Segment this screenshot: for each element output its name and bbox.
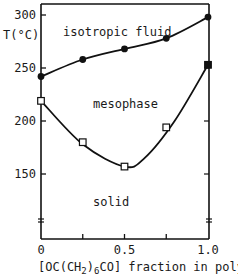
y-axis-label: T(°C) [3,28,39,42]
data-point-filled-circle [79,56,86,63]
y-tick-label: 150 [14,167,36,181]
data-point-filled-circle [121,46,128,53]
x-axis-label: [OC(CH2)6CO] fraction in polymer [38,260,238,276]
region-label-mesophase: mesophase [93,97,158,111]
data-point-open-square [79,139,86,146]
y-tick-label: 250 [14,61,36,75]
data-point-open-square [38,98,45,105]
x-tick-label: 0.5 [114,243,136,257]
data-point-open-square [121,163,128,170]
x-axis-ticks: 00.51.0 [37,234,218,257]
x-tick-label: 0 [37,243,44,257]
phase-diagram-chart: 150200250300 00.51.0 T(°C) isotropic flu… [0,0,238,277]
melting-curve [41,65,208,167]
y-tick-label: 200 [14,114,36,128]
data-point-filled-square [205,62,212,69]
data-point-filled-circle [38,73,45,80]
region-label-solid: solid [93,195,129,209]
data-point-filled-circle [205,14,212,21]
data-point-open-square [163,124,170,131]
phase-boundary-curves [41,17,208,167]
x-tick-label: 1.0 [197,243,219,257]
axis-break-marks [38,219,212,222]
y-tick-label: 300 [14,8,36,22]
region-label-isotropic-fluid: isotropic fluid [63,25,171,39]
